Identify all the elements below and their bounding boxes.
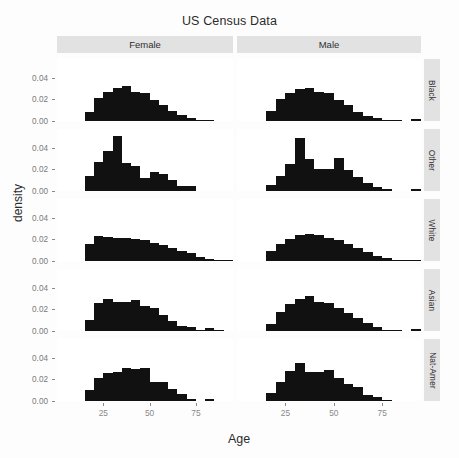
histogram-bar: [94, 98, 103, 121]
histogram-bar: [295, 89, 305, 121]
histogram-bar: [177, 394, 186, 401]
histogram-bar: [205, 328, 214, 331]
panel-female-black: [57, 59, 233, 121]
histogram-bar: [140, 306, 149, 331]
panel-male-white: [237, 199, 421, 261]
histogram-bar: [353, 318, 363, 331]
histogram-bar: [122, 302, 131, 331]
histogram-bar: [94, 378, 103, 401]
histogram-bars: [237, 339, 421, 401]
histogram-bar: [344, 105, 354, 121]
histogram-bar: [324, 238, 334, 261]
histogram-bar: [363, 116, 373, 121]
histogram-bar: [122, 163, 131, 191]
histogram-bar: [187, 399, 196, 401]
histogram-bar: [344, 384, 354, 401]
histogram-bar: [150, 382, 159, 401]
y-tick-mark: [52, 99, 55, 100]
histogram-bar: [113, 302, 122, 331]
histogram-bar: [285, 371, 295, 401]
histogram-bar: [392, 120, 402, 121]
histogram-bar: [363, 183, 373, 191]
histogram-bar: [187, 253, 196, 261]
y-tick-label: 0.04: [14, 353, 48, 362]
histogram-bar: [373, 397, 383, 401]
histogram-bar: [103, 237, 112, 261]
histogram-bars: [57, 59, 233, 121]
histogram-bar: [131, 166, 140, 191]
histogram-bar: [411, 329, 421, 331]
histogram-bar: [334, 378, 344, 401]
histogram-bar: [187, 327, 196, 331]
histogram-bar: [214, 260, 223, 261]
histogram-bar: [266, 393, 276, 401]
histogram-bar: [411, 119, 421, 121]
y-tick-mark: [52, 239, 55, 240]
histogram-bar: [324, 169, 334, 191]
panel-male-black: [237, 59, 421, 121]
y-tick-label: 0.00: [14, 397, 48, 406]
histogram-bar: [314, 302, 324, 331]
histogram-bar: [276, 176, 286, 191]
histogram-bar: [140, 368, 149, 401]
y-tick-label: 0.02: [14, 235, 48, 244]
row-strip-asian: Asian: [424, 269, 440, 331]
x-tick-mark: [150, 403, 151, 406]
column-strip-label: Female: [129, 39, 161, 50]
histogram-bar: [353, 248, 363, 261]
row-strip-label: Asian: [428, 289, 437, 310]
histogram-bar: [285, 304, 295, 331]
histogram-bars: [237, 59, 421, 121]
y-tick-label: 0.00: [14, 117, 48, 126]
row-strip-nat-amer: Nat-Amer: [424, 339, 440, 401]
column-strip-male: Male: [237, 36, 421, 53]
histogram-bar: [113, 136, 122, 191]
histogram-bar: [382, 330, 392, 331]
y-tick-mark: [52, 218, 55, 219]
y-tick-mark: [52, 148, 55, 149]
histogram-bar: [150, 308, 159, 331]
y-tick-mark: [52, 288, 55, 289]
histogram-bars: [57, 199, 233, 261]
histogram-bar: [168, 111, 177, 121]
histogram-bars: [57, 269, 233, 331]
x-tick-mark: [103, 403, 104, 406]
histogram-bar: [94, 162, 103, 191]
histogram-bar: [373, 327, 383, 331]
histogram-bar: [285, 164, 295, 191]
histogram-bar: [177, 115, 186, 121]
histogram-bar: [295, 299, 305, 331]
histogram-bars: [57, 339, 233, 401]
histogram-bar: [295, 363, 305, 401]
y-tick-label: 0.00: [14, 327, 48, 336]
histogram-bar: [113, 238, 122, 261]
histogram-bar: [392, 260, 402, 261]
histogram-bar: [224, 260, 233, 261]
histogram-bar: [85, 244, 94, 261]
histogram-bars: [57, 129, 233, 191]
x-tick-label: 25: [281, 408, 290, 418]
histogram-bar: [214, 330, 223, 331]
histogram-bar: [140, 93, 149, 121]
histogram-bar: [373, 187, 383, 191]
histogram-bar: [85, 176, 94, 191]
y-tick-label: 0.04: [14, 73, 48, 82]
row-strip-label: White: [428, 219, 437, 241]
histogram-bar: [196, 257, 205, 261]
histogram-bar: [122, 368, 131, 401]
chart-title: US Census Data: [0, 14, 459, 28]
x-tick-label: 75: [191, 408, 200, 418]
y-tick-mark: [52, 261, 55, 262]
histogram-bar: [177, 326, 186, 331]
row-strip-other: Other: [424, 129, 440, 191]
y-tick-label: 0.02: [14, 375, 48, 384]
histogram-bar: [305, 159, 315, 191]
histogram-bar: [305, 372, 315, 401]
x-axis-title: Age: [57, 432, 421, 446]
panel-male-asian: [237, 269, 421, 331]
y-tick-mark: [52, 121, 55, 122]
histogram-bar: [196, 330, 205, 331]
histogram-bar: [324, 370, 334, 401]
histogram-bar: [196, 120, 205, 121]
y-tick-label: 0.02: [14, 165, 48, 174]
